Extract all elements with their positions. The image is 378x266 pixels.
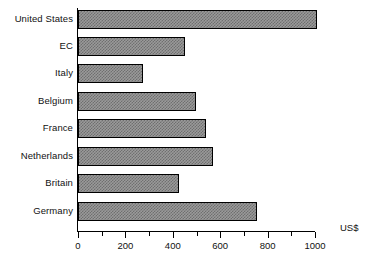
bar-united-states — [78, 10, 317, 29]
bar-ec — [78, 37, 185, 56]
x-tick-label-200: 200 — [105, 240, 145, 251]
category-label-germany: Germany — [0, 206, 73, 216]
x-tick-label-400: 400 — [153, 240, 193, 251]
x-axis-unit-label: US$ — [340, 222, 358, 233]
category-axis-labels: United States EC Italy Belgium France Ne… — [0, 0, 73, 266]
category-label-ec: EC — [0, 41, 73, 51]
x-tick-major-0 — [78, 232, 79, 238]
x-tick-label-0: 0 — [58, 240, 98, 251]
category-label-italy: Italy — [0, 68, 73, 78]
x-tick-minor-700 — [244, 232, 245, 236]
x-tick-label-1000: 1000 — [295, 240, 335, 251]
x-tick-major-600 — [220, 232, 221, 238]
bar-belgium — [78, 92, 196, 111]
bar-france — [78, 119, 206, 138]
x-tick-minor-900 — [291, 232, 292, 236]
x-tick-minor-100 — [102, 232, 103, 236]
category-label-netherlands: Netherlands — [0, 151, 73, 161]
bar-chart: United States EC Italy Belgium France Ne… — [0, 0, 378, 266]
x-tick-major-800 — [268, 232, 269, 238]
bar-germany — [78, 202, 257, 221]
x-tick-major-1000 — [315, 232, 316, 238]
x-tick-label-800: 800 — [248, 240, 288, 251]
bar-italy — [78, 64, 143, 83]
x-tick-minor-500 — [197, 232, 198, 236]
bar-netherlands — [78, 147, 213, 166]
category-label-belgium: Belgium — [0, 96, 73, 106]
x-tick-major-200 — [125, 232, 126, 238]
plot-area: 02004006008001000 — [78, 8, 315, 232]
category-label-united-states: United States — [0, 14, 73, 24]
category-label-britain: Britain — [0, 178, 73, 188]
category-label-france: France — [0, 123, 73, 133]
bar-britain — [78, 174, 179, 193]
x-tick-label-600: 600 — [200, 240, 240, 251]
x-tick-major-400 — [173, 232, 174, 238]
x-tick-minor-300 — [149, 232, 150, 236]
